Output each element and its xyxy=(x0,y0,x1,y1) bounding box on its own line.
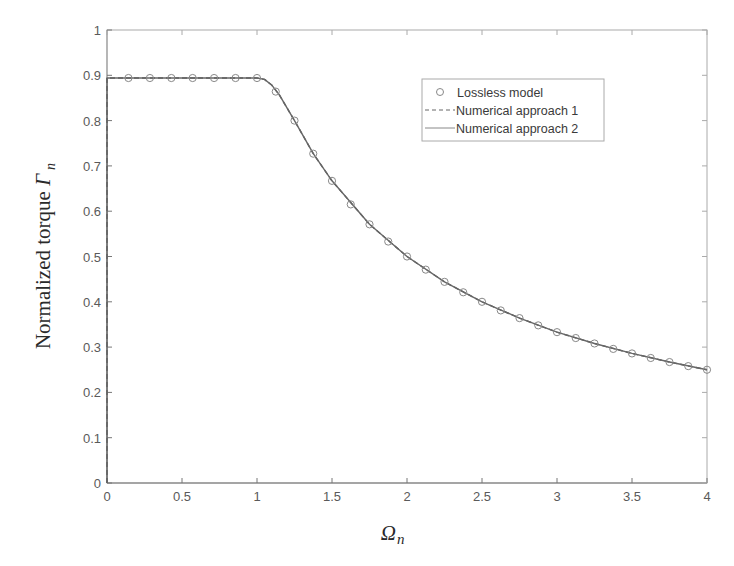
lossless-model-marker xyxy=(272,88,279,95)
x-tick-label: 1 xyxy=(253,489,260,504)
y-tick-label: 0.4 xyxy=(83,295,101,310)
y-tick-label: 0 xyxy=(94,476,101,491)
chart: 00.511.522.533.5400.10.20.30.40.50.60.70… xyxy=(0,0,734,566)
y-axis-title-text: Normalized torque xyxy=(31,186,55,349)
y-tick-label: 0.6 xyxy=(83,204,101,219)
svg-text:Normalized torque Γn: Normalized torque Γn xyxy=(31,163,58,349)
y-tick-label: 0.7 xyxy=(83,159,101,174)
numerical-approach-1-line xyxy=(107,78,707,483)
y-tick-label: 1 xyxy=(94,23,101,38)
y-tick-label: 0.2 xyxy=(83,385,101,400)
y-tick-label: 0.1 xyxy=(83,431,101,446)
lossless-model-markers xyxy=(125,74,711,373)
x-tick-label: 0 xyxy=(103,489,110,504)
x-tick-label: 2 xyxy=(403,489,410,504)
x-tick-label: 3 xyxy=(553,489,560,504)
legend: Lossless model Numerical approach 1 Nume… xyxy=(422,79,604,141)
x-axis-title: Ω n xyxy=(381,521,405,547)
x-tick-label: 4 xyxy=(703,489,710,504)
axis-ticks: 00.511.522.533.5400.10.20.30.40.50.60.70… xyxy=(83,23,711,504)
x-tick-label: 2.5 xyxy=(473,489,491,504)
y-tick-label: 0.3 xyxy=(83,340,101,355)
legend-label: Numerical approach 2 xyxy=(456,122,578,136)
x-axis-title-subscript: n xyxy=(397,531,405,547)
legend-label: Lossless model xyxy=(457,86,543,100)
y-tick-label: 0.9 xyxy=(83,68,101,83)
y-axis-title-symbol: Γ xyxy=(31,173,55,187)
x-tick-label: 3.5 xyxy=(623,489,641,504)
x-axis-title-symbol: Ω xyxy=(381,521,396,545)
y-axis-title-subscript: n xyxy=(43,163,58,170)
numerical-approach-2-line xyxy=(107,78,707,483)
x-tick-label: 1.5 xyxy=(323,489,341,504)
y-tick-label: 0.5 xyxy=(83,250,101,265)
legend-label: Numerical approach 1 xyxy=(456,104,578,118)
lossless-model-marker xyxy=(385,238,392,245)
series-lines xyxy=(107,78,707,483)
x-tick-label: 0.5 xyxy=(173,489,191,504)
y-axis-title: Normalized torque Γn xyxy=(31,163,58,349)
y-tick-label: 0.8 xyxy=(83,114,101,129)
